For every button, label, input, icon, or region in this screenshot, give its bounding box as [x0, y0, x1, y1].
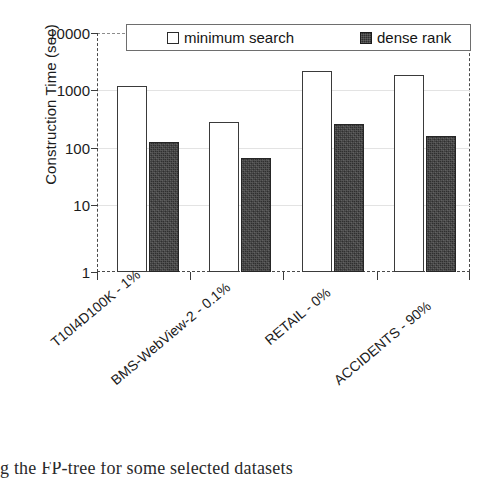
x-tick-mark: [469, 272, 470, 280]
x-tick-mark: [97, 272, 98, 280]
filled-square-icon: [360, 32, 372, 44]
bar-minimum-search: [117, 86, 147, 272]
y-tick-mark: [91, 90, 98, 91]
y-tick-mark: [91, 148, 98, 149]
plot-area: [97, 33, 470, 272]
y-tick-label: 10000: [28, 25, 90, 42]
legend-entry-dense-rank: dense rank: [360, 29, 451, 46]
chart-figure: Construction Time (sec) 10000 1000 100 1…: [0, 0, 493, 482]
chart-legend: minimum search dense rank: [126, 24, 471, 51]
x-tick-mark: [377, 272, 378, 280]
hollow-square-icon: [167, 32, 179, 44]
bar-dense-rank: [334, 124, 364, 272]
figure-caption-text: g the FP-tree for some selected datasets: [0, 462, 493, 479]
legend-label: minimum search: [184, 29, 294, 46]
y-tick-label: 1: [28, 264, 90, 281]
x-tick-mark: [283, 272, 284, 280]
y-tick-label: 1000: [28, 82, 90, 99]
bar-dense-rank: [241, 158, 271, 272]
y-tick-label: 10: [28, 197, 90, 214]
x-tick-mark: [190, 272, 191, 280]
bar-minimum-search: [394, 75, 424, 272]
bar-minimum-search: [209, 122, 239, 272]
legend-entry-minimum-search: minimum search: [167, 29, 294, 46]
bar-dense-rank: [149, 142, 179, 272]
y-tick-mark: [91, 205, 98, 206]
bar-minimum-search: [302, 71, 332, 272]
legend-label: dense rank: [377, 29, 451, 46]
y-tick-mark: [91, 33, 98, 34]
y-tick-label: 100: [28, 140, 90, 157]
bar-dense-rank: [426, 136, 456, 272]
figure-caption: g the FP-tree for some selected datasets: [0, 462, 493, 482]
